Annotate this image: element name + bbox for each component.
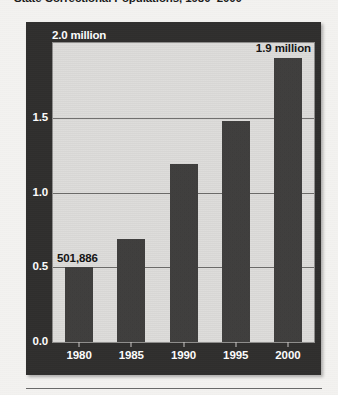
footer-rule (26, 388, 322, 389)
bar-1980 (65, 267, 93, 342)
y-axis-label-0-5: 0.5 (33, 260, 48, 272)
bar-2000 (274, 58, 302, 342)
x-axis-label-1995: 1995 (223, 349, 248, 361)
x-tick-2000 (287, 342, 288, 347)
x-tick-1995 (235, 342, 236, 347)
x-axis-label-2000: 2000 (275, 349, 300, 361)
value-label-2000: 1.9 million (256, 42, 311, 54)
y-axis-label-2: 2.0 million (52, 29, 106, 42)
x-tick-1980 (79, 342, 80, 347)
chart-headline: State Correctional Populations, 1980–200… (14, 0, 324, 8)
bar-1995 (222, 121, 250, 342)
plot-area: 19801985199019952000 501,8861.9 million (52, 42, 315, 343)
bar-1985 (117, 239, 145, 342)
bar-1990 (170, 164, 198, 342)
x-axis-label-1990: 1990 (171, 349, 196, 361)
page-background: State Correctional Populations, 1980–200… (0, 0, 338, 395)
value-label-1980: 501,886 (57, 252, 98, 264)
x-axis-label-1985: 1985 (119, 349, 144, 361)
bar-series (53, 43, 314, 342)
y-axis-label-1: 1.0 (33, 186, 48, 198)
x-tick-1990 (183, 342, 184, 347)
x-tick-1985 (131, 342, 132, 347)
chart-frame: 0.00.51.01.52.0 million 1980198519901995… (26, 22, 321, 375)
y-axis-label-1-5: 1.5 (33, 111, 48, 123)
x-axis-label-1980: 1980 (67, 349, 92, 361)
y-axis-label-0: 0.0 (33, 335, 48, 347)
